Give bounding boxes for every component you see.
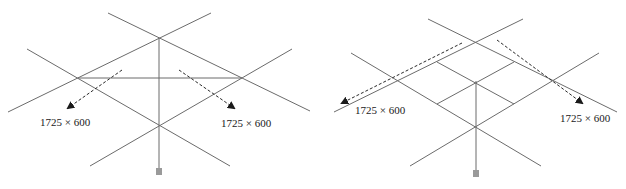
diagonal-line bbox=[108, 13, 310, 111]
dimension-arrow bbox=[179, 70, 234, 108]
dimension-label: 1725 × 600 bbox=[221, 117, 272, 129]
right-grid-lines bbox=[334, 19, 617, 170]
diagonal-line bbox=[334, 19, 523, 112]
diagonal-line bbox=[428, 19, 617, 112]
dimension-label: 1725 × 600 bbox=[560, 112, 611, 124]
dimension-label: 1725 × 600 bbox=[355, 104, 406, 116]
dimension-arrow bbox=[497, 40, 582, 103]
left-grid-lines bbox=[8, 13, 310, 168]
diagonal-line bbox=[90, 49, 292, 166]
diagonal-line bbox=[410, 53, 599, 166]
dimension-label: 1725 × 600 bbox=[40, 116, 91, 128]
diagonal-line bbox=[8, 13, 211, 112]
base-marker-icon bbox=[156, 168, 162, 175]
diagram-canvas: 1725 × 600 1725 × 600 1725 × 600 1725 × … bbox=[0, 0, 626, 189]
diagonal-line bbox=[27, 49, 230, 166]
left-panel: 1725 × 600 1725 × 600 bbox=[8, 13, 310, 175]
base-marker-icon bbox=[473, 170, 479, 177]
dimension-arrow bbox=[68, 70, 122, 108]
right-panel: 1725 × 600 1725 × 600 bbox=[334, 19, 617, 177]
dimension-arrow bbox=[342, 43, 462, 103]
